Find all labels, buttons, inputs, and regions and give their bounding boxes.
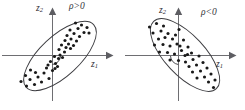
panel-positive-correlation: z1 z2 ρ>0 (0, 0, 122, 110)
data-point (78, 35, 81, 38)
data-point (190, 51, 193, 54)
data-point (187, 65, 190, 68)
data-point (212, 86, 215, 89)
positive-correlation-plot (0, 0, 122, 110)
data-point (158, 50, 161, 53)
data-point (68, 28, 71, 31)
data-point (46, 63, 49, 66)
data-point (197, 54, 200, 57)
data-point (85, 26, 88, 29)
data-point (153, 43, 156, 46)
data-point (180, 49, 183, 52)
data-point (47, 77, 50, 80)
data-point (195, 76, 198, 79)
data-point (166, 51, 169, 54)
data-point (56, 65, 59, 68)
data-point (162, 24, 165, 27)
data-point (69, 47, 72, 50)
data-point (177, 28, 180, 31)
correlation-figure: z1 z2 ρ>0 z1 (0, 0, 245, 110)
data-point (191, 70, 194, 73)
panel-negative-correlation: z1 z2 ρ<0 (123, 0, 245, 110)
data-point (49, 60, 52, 63)
data-point (175, 42, 178, 45)
data-point (168, 44, 171, 47)
data-point (72, 44, 75, 47)
data-point (61, 56, 64, 59)
data-point (151, 31, 154, 34)
data-point (213, 78, 216, 81)
data-point (33, 83, 36, 86)
data-point (177, 59, 180, 62)
data-point (67, 42, 70, 45)
data-point (72, 32, 75, 35)
data-point (195, 63, 198, 66)
data-point (76, 27, 79, 30)
data-point (168, 58, 171, 61)
data-point (19, 80, 22, 83)
data-point (159, 29, 162, 32)
x-axis-label-negative: z1 (216, 60, 223, 70)
y-axis-label-negative: z2 (159, 6, 166, 16)
data-point (57, 57, 60, 60)
data-point (65, 34, 68, 37)
data-point (191, 58, 194, 61)
data-point (60, 43, 63, 46)
data-point (34, 71, 37, 74)
data-point (161, 43, 164, 46)
data-point (166, 32, 169, 35)
data-point (74, 21, 77, 24)
data-point (29, 68, 32, 71)
data-point (182, 38, 185, 41)
data-point (199, 69, 202, 72)
negative-correlation-plot (123, 0, 245, 110)
data-point (205, 66, 208, 69)
data-point (63, 39, 66, 42)
rho-label-negative: ρ<0 (201, 8, 217, 18)
data-point (58, 53, 61, 56)
data-point (24, 74, 27, 77)
data-point (87, 31, 90, 34)
data-point (57, 48, 60, 51)
data-point (184, 60, 187, 63)
data-point (69, 37, 72, 40)
data-point (157, 37, 160, 40)
data-point (163, 36, 166, 39)
rho-label-positive: ρ>0 (69, 2, 85, 12)
data-point (209, 72, 212, 75)
data-point (63, 50, 66, 53)
data-point (28, 78, 31, 81)
data-point (186, 45, 189, 48)
data-point (42, 71, 45, 74)
scatter-points-positive (19, 21, 90, 87)
data-point (75, 39, 78, 42)
data-point (171, 37, 174, 40)
data-point (174, 33, 177, 36)
data-point (45, 66, 48, 69)
data-point (51, 69, 54, 72)
data-point (148, 25, 151, 28)
data-point (54, 62, 57, 65)
data-point (173, 52, 176, 55)
data-point (53, 67, 56, 70)
data-point (155, 22, 158, 25)
data-point (201, 61, 204, 64)
x-axis-label-positive: z1 (91, 60, 98, 70)
data-point (40, 80, 43, 83)
y-axis-label-positive: z2 (36, 4, 43, 14)
data-point (82, 31, 85, 34)
data-point (64, 46, 67, 49)
data-point (203, 75, 206, 78)
data-point (53, 55, 56, 58)
data-point (80, 23, 83, 26)
data-point (36, 75, 39, 78)
data-point (178, 44, 181, 47)
data-point (25, 84, 28, 87)
data-point (186, 53, 189, 56)
data-point (207, 80, 210, 83)
